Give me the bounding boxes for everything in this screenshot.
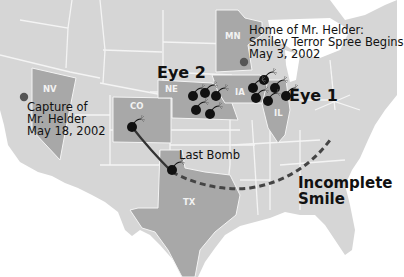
capture-label: Capture of Mr. Helder May 18, 2002	[27, 101, 106, 137]
state-label-tx: TX	[183, 197, 195, 207]
home-dot	[240, 58, 248, 66]
home-label: Home of Mr. Helder: Smiley Terror Spree …	[249, 24, 404, 60]
eye1-label: Eye 1	[289, 88, 338, 105]
state-label-co: CO	[130, 101, 143, 111]
capture-line-3: May 18, 2002	[27, 125, 106, 137]
state-label-nv: NV	[43, 84, 57, 94]
state-label-ne: NE	[165, 84, 178, 94]
last-bomb-label: Last Bomb	[179, 149, 240, 161]
incomplete-smile-label: Incomplete Smile	[298, 176, 392, 208]
incomplete-line-2: Smile	[298, 192, 392, 208]
state-label-ia: IA	[235, 87, 245, 97]
state-label-il: IL	[274, 108, 283, 118]
home-line-3: May 3, 2002	[249, 48, 404, 60]
eye2-label: Eye 2	[157, 65, 206, 82]
state-label-mn: MN	[225, 31, 241, 41]
